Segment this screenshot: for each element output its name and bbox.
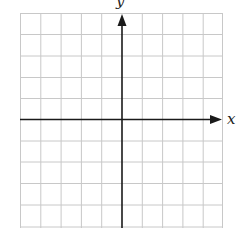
y-axis bbox=[118, 14, 127, 228]
y-axis-label: y bbox=[115, 0, 125, 10]
x-axis-arrow-icon bbox=[210, 115, 222, 124]
x-axis bbox=[20, 115, 222, 124]
coordinate-plane: x y bbox=[0, 0, 237, 231]
y-axis-arrow-icon bbox=[118, 14, 127, 26]
x-axis-label: x bbox=[227, 110, 236, 128]
